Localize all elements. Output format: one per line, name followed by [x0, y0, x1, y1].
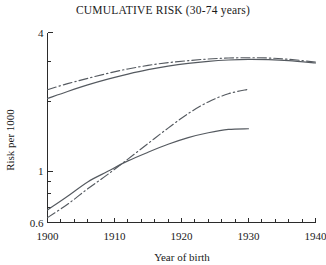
y-tick-label: 4: [38, 27, 44, 39]
x-tick-label: 1930: [238, 230, 261, 242]
y-tick-label: 1: [38, 165, 44, 177]
y-axis: 0.614: [30, 27, 53, 229]
chart-svg: CUMULATIVE RISK (30-74 years) 0.614 1900…: [0, 0, 326, 265]
x-tick-label: 1920: [171, 230, 194, 242]
series-lower-solid: [48, 129, 249, 210]
series-lower-dash-dot: [48, 89, 249, 217]
y-tick-label: 0.6: [30, 217, 44, 229]
chart-title: CUMULATIVE RISK (30-74 years): [76, 4, 250, 17]
x-tick-label: 1910: [104, 230, 127, 242]
y-axis-tick-labels: 0.614: [30, 27, 44, 229]
x-axis: 19001910192019301940: [37, 218, 326, 242]
x-tick-label: 1900: [37, 230, 60, 242]
y-axis-title: Risk per 1000: [4, 109, 16, 171]
x-axis-title: Year of birth: [154, 251, 210, 263]
x-tick-label: 1940: [305, 230, 326, 242]
x-axis-tick-labels: 19001910192019301940: [37, 230, 326, 242]
cumulative-risk-chart: CUMULATIVE RISK (30-74 years) 0.614 1900…: [0, 0, 326, 265]
series-lines: [48, 58, 316, 218]
